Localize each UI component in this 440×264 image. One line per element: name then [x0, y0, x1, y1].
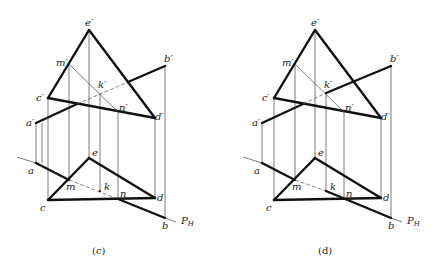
label-d: d — [157, 192, 163, 203]
label-n: n — [120, 188, 126, 199]
label-m: m — [292, 181, 301, 192]
label-e-prime: e′ — [85, 17, 94, 28]
label-e-prime: e′ — [311, 17, 320, 28]
label-e: e — [92, 147, 98, 158]
label-b-prime: b′ — [164, 53, 173, 64]
label-k: k — [104, 181, 110, 192]
labels-c: e′ m′ b′ c′ k′ n′ a′ d′ a e m k n c d b … — [26, 17, 195, 256]
label-c-prime: c′ — [36, 92, 45, 103]
label-c: c — [266, 202, 272, 213]
label-m-prime: m′ — [282, 57, 294, 68]
caption-d: (d) — [318, 245, 332, 256]
label-trace-ph: PH — [406, 215, 421, 228]
label-a: a — [254, 165, 260, 176]
label-a-prime: a′ — [252, 117, 261, 128]
panel-c: e′ m′ b′ c′ k′ n′ a′ d′ a e m k n c d b … — [17, 17, 195, 256]
label-n: n — [346, 188, 352, 199]
label-a-prime: a′ — [26, 117, 35, 128]
front-triangle — [274, 30, 381, 118]
label-a: a — [28, 165, 34, 176]
label-c-prime: c′ — [262, 92, 271, 103]
panel-d-body: e′ m′ b′ c′ k′ n′ a′ d′ a e m k n c d b … — [243, 17, 421, 256]
label-n-prime: n′ — [119, 102, 128, 113]
caption-c: (c) — [92, 245, 106, 256]
front-triangle — [48, 30, 155, 118]
label-d-prime: d′ — [381, 111, 390, 122]
label-trace-ph: PH — [180, 215, 195, 228]
label-k-prime: k′ — [324, 79, 333, 90]
label-b: b — [162, 220, 168, 231]
label-m-prime: m′ — [56, 57, 68, 68]
label-c: c — [40, 202, 46, 213]
label-n-prime: n′ — [345, 102, 354, 113]
label-k-prime: k′ — [98, 79, 107, 90]
label-d: d — [383, 192, 389, 203]
label-b-prime: b′ — [390, 53, 399, 64]
label-b: b — [388, 220, 394, 231]
label-k: k — [330, 181, 336, 192]
label-d-prime: d′ — [155, 111, 164, 122]
projection-diagram: e′ m′ b′ c′ k′ n′ a′ d′ a e m k n c d b … — [0, 0, 440, 264]
labels-d: e′ m′ b′ c′ k′ n′ a′ d′ a e m k n c d b … — [252, 17, 421, 256]
label-m: m — [66, 181, 75, 192]
label-e: e — [318, 147, 324, 158]
